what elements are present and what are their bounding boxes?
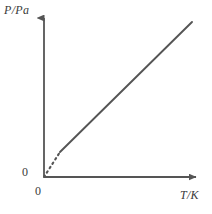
y-axis-label: P/Pa bbox=[4, 3, 29, 18]
origin-label-y-axis: 0 bbox=[22, 165, 28, 180]
data-line-solid-segment bbox=[60, 22, 192, 152]
data-line-dotted-segment bbox=[44, 152, 60, 177]
origin-label-x-axis: 0 bbox=[35, 184, 41, 199]
chart-canvas bbox=[0, 0, 212, 214]
x-axis-label: T/K bbox=[180, 188, 199, 203]
pressure-temperature-chart: P/Pa T/K 0 0 bbox=[0, 0, 212, 214]
